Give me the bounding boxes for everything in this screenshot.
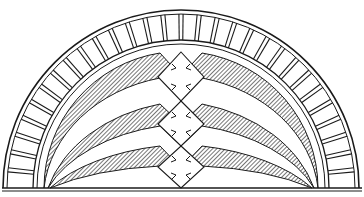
diamond-ornaments	[158, 52, 204, 188]
arch-drawing	[0, 0, 364, 197]
base-ledge	[2, 188, 362, 191]
arch-illustration: Semicircular arch lunette with voussoirs…	[0, 0, 364, 197]
diamond-2	[158, 101, 204, 146]
